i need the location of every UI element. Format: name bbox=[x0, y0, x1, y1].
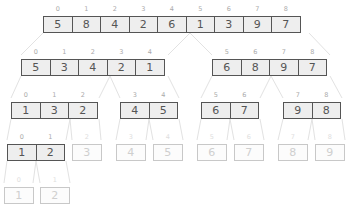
array-level-4-0: 01 bbox=[4, 187, 34, 204]
cell-value: 6 bbox=[212, 104, 219, 117]
cell-value: 1 bbox=[146, 61, 153, 74]
cell-value: 9 bbox=[280, 61, 287, 74]
cell-value: 1 bbox=[197, 18, 204, 31]
array-cell: 89 bbox=[315, 144, 345, 161]
array-cell: 01 bbox=[11, 102, 41, 119]
array-cell: 13 bbox=[50, 59, 80, 76]
cell-value: 5 bbox=[164, 146, 171, 159]
array-cell: 24 bbox=[100, 16, 130, 33]
array-cell: 56 bbox=[212, 59, 242, 76]
array-cell: 32 bbox=[129, 16, 159, 33]
array-cell: 79 bbox=[269, 59, 299, 76]
cell-index: 7 bbox=[284, 91, 312, 99]
array-level-4-1: 12 bbox=[40, 187, 70, 204]
cell-index: 1 bbox=[41, 91, 69, 99]
cell-index: 6 bbox=[231, 91, 259, 99]
array-cell: 12 bbox=[40, 187, 70, 204]
cell-index: 3 bbox=[121, 91, 149, 99]
cell-value: 3 bbox=[61, 61, 68, 74]
cell-index: 2 bbox=[69, 91, 97, 99]
cell-index: 4 bbox=[136, 48, 164, 56]
array-cell: 45 bbox=[149, 102, 179, 119]
array-cell: 01 bbox=[4, 187, 34, 204]
cell-index: 6 bbox=[242, 48, 270, 56]
cell-index: 0 bbox=[8, 133, 36, 141]
cell-value: 8 bbox=[252, 61, 259, 74]
array-cell: 05 bbox=[43, 16, 73, 33]
array-level-3-3: 45 bbox=[153, 144, 183, 161]
array-level-3-7: 89 bbox=[315, 144, 345, 161]
cell-value: 6 bbox=[208, 146, 215, 159]
cell-value: 7 bbox=[241, 104, 248, 117]
array-cell: 67 bbox=[234, 144, 264, 161]
array-cell: 23 bbox=[72, 144, 102, 161]
array-level-2-1: 3445 bbox=[120, 102, 178, 119]
array-cell: 51 bbox=[186, 16, 216, 33]
cell-value: 8 bbox=[323, 104, 330, 117]
cell-value: 5 bbox=[160, 104, 167, 117]
cell-value: 6 bbox=[223, 61, 230, 74]
cell-index: 4 bbox=[154, 133, 182, 141]
cell-value: 3 bbox=[225, 18, 232, 31]
cell-index: 3 bbox=[117, 133, 145, 141]
array-level-3-5: 67 bbox=[234, 144, 264, 161]
cell-index: 8 bbox=[272, 5, 300, 13]
cell-value: 4 bbox=[131, 104, 138, 117]
cell-value: 2 bbox=[51, 189, 58, 202]
cell-index: 4 bbox=[158, 5, 186, 13]
cell-value: 4 bbox=[127, 146, 134, 159]
cell-value: 3 bbox=[51, 104, 58, 117]
cell-value: 6 bbox=[168, 18, 175, 31]
array-level-0-0: 051824324651637987 bbox=[43, 16, 301, 33]
array-level-2-0: 011322 bbox=[11, 102, 98, 119]
array-cell: 45 bbox=[153, 144, 183, 161]
array-level-3-2: 34 bbox=[116, 144, 146, 161]
array-cell: 78 bbox=[278, 144, 308, 161]
array-level-1-1: 56687987 bbox=[212, 59, 327, 76]
cell-index: 0 bbox=[22, 48, 50, 56]
cell-index: 8 bbox=[299, 48, 327, 56]
cell-index: 6 bbox=[235, 133, 263, 141]
cell-value: 7 bbox=[245, 146, 252, 159]
cell-index: 4 bbox=[150, 91, 178, 99]
cell-index: 5 bbox=[202, 91, 230, 99]
cell-index: 0 bbox=[12, 91, 40, 99]
cell-value: 5 bbox=[32, 61, 39, 74]
cell-index: 5 bbox=[187, 5, 215, 13]
array-cell: 79 bbox=[243, 16, 273, 33]
cell-value: 8 bbox=[83, 18, 90, 31]
cell-value: 7 bbox=[309, 61, 316, 74]
cell-value: 7 bbox=[282, 18, 289, 31]
cell-index: 5 bbox=[198, 133, 226, 141]
array-level-3-6: 78 bbox=[278, 144, 308, 161]
cell-value: 1 bbox=[22, 104, 29, 117]
array-cell: 22 bbox=[68, 102, 98, 119]
cell-index: 2 bbox=[73, 133, 101, 141]
array-cell: 56 bbox=[197, 144, 227, 161]
cell-value: 2 bbox=[140, 18, 147, 31]
cell-index: 5 bbox=[213, 48, 241, 56]
array-level-1-0: 0513243241 bbox=[21, 59, 165, 76]
cell-value: 1 bbox=[15, 189, 22, 202]
cell-index: 6 bbox=[215, 5, 243, 13]
cell-index: 1 bbox=[73, 5, 101, 13]
cell-value: 9 bbox=[254, 18, 261, 31]
array-cell: 68 bbox=[241, 59, 271, 76]
cell-index: 3 bbox=[130, 5, 158, 13]
cell-index: 1 bbox=[37, 133, 65, 141]
cell-value: 2 bbox=[79, 104, 86, 117]
array-level-3-4: 56 bbox=[197, 144, 227, 161]
cell-index: 8 bbox=[313, 91, 341, 99]
array-cell: 56 bbox=[201, 102, 231, 119]
array-cell: 87 bbox=[298, 59, 328, 76]
cell-value: 9 bbox=[326, 146, 333, 159]
cell-index: 1 bbox=[51, 48, 79, 56]
cell-value: 1 bbox=[18, 146, 25, 159]
array-cell: 18 bbox=[72, 16, 102, 33]
cell-value: 2 bbox=[118, 61, 125, 74]
array-level-2-2: 5667 bbox=[201, 102, 259, 119]
array-cell: 87 bbox=[271, 16, 301, 33]
cell-index: 7 bbox=[270, 48, 298, 56]
array-cell: 46 bbox=[157, 16, 187, 33]
array-cell: 01 bbox=[7, 144, 37, 161]
